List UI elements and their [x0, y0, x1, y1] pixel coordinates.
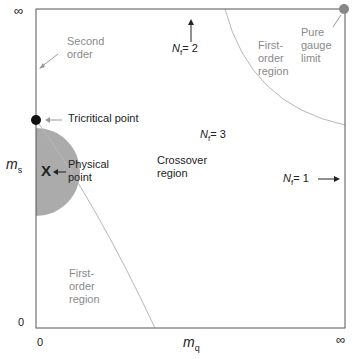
pure-gauge-label: Puregaugelimit	[301, 26, 332, 65]
x-axis-label: mq	[183, 336, 200, 355]
y-axis-label: ms	[6, 158, 22, 177]
physical-point-marker: X	[41, 164, 51, 177]
x-tick-zero: 0	[37, 336, 43, 349]
physical-point-label: Physicalpoint	[68, 158, 109, 184]
pure-gauge-point	[339, 4, 349, 14]
first-order-bottom-label: First-orderregion	[69, 267, 100, 306]
nf2-label: Nf= 2	[172, 42, 198, 59]
crossover-label: Crossoverregion	[157, 154, 207, 180]
tricritical-point	[31, 115, 41, 125]
x-tick-infinity: ∞	[336, 333, 345, 346]
nf1-label: Nf= 1	[283, 172, 309, 189]
nf3-label: Nf= 3	[200, 128, 226, 145]
pure-gauge-arrow	[333, 15, 341, 27]
second-order-label: Secondorder	[67, 35, 104, 61]
first-order-top-label: First-orderregion	[258, 39, 289, 78]
tricritical-label: Tricritical point	[68, 112, 139, 125]
y-tick-zero: 0	[18, 316, 24, 329]
y-tick-infinity: ∞	[14, 4, 23, 17]
